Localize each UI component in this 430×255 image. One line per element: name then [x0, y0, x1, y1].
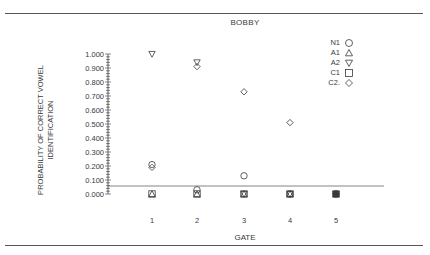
- circle-icon: [344, 38, 354, 48]
- triangle-up-marker-icon: [149, 191, 155, 197]
- diamond-marker-icon: [287, 119, 293, 125]
- y-tick-label: 0.400: [85, 134, 104, 143]
- scatter-plot: 1.0000.9000.8000.7000.6000.5000.4000.300…: [0, 0, 430, 255]
- diamond-icon: [344, 78, 354, 88]
- y-tick-label: 1.000: [85, 50, 104, 59]
- legend-item: N1: [318, 38, 354, 48]
- triangle-down-icon: [344, 58, 354, 68]
- overlapping-markers: [333, 191, 339, 197]
- x-tick-label: 1: [150, 216, 154, 225]
- y-tick-label: 0.500: [85, 120, 104, 129]
- y-tick-label: 0.100: [85, 176, 104, 185]
- legend-label: N1: [318, 38, 340, 48]
- x-tick-label: 4: [288, 216, 292, 225]
- y-tick-label: 0.300: [85, 148, 104, 157]
- square-icon: [344, 68, 354, 78]
- y-axis: 1.0000.9000.8000.7000.6000.5000.4000.300…: [85, 50, 111, 199]
- legend-label: A1: [318, 48, 340, 58]
- legend-item: C1: [318, 68, 354, 78]
- square-marker-icon: [346, 70, 353, 77]
- triangle-down-marker-icon: [149, 51, 155, 57]
- triangle-up-marker-icon: [346, 50, 353, 56]
- triangle-up-icon: [344, 48, 354, 58]
- legend-item: A1: [318, 48, 354, 58]
- triangle-down-marker-icon: [346, 60, 353, 66]
- x-tick-label: 5: [334, 216, 338, 225]
- x-tick-label: 3: [242, 216, 246, 225]
- legend-item: C2.: [318, 78, 354, 88]
- triangle-down-marker-icon: [194, 60, 200, 66]
- y-tick-label: 0.000: [85, 190, 104, 199]
- y-tick-label: 0.200: [85, 162, 104, 171]
- y-tick-label: 0.700: [85, 92, 104, 101]
- legend: N1A1A2C1C2.: [318, 38, 354, 88]
- legend-label: C1: [318, 68, 340, 78]
- diamond-marker-icon: [194, 63, 200, 69]
- diamond-marker-icon: [241, 89, 247, 95]
- circle-marker-icon: [194, 187, 200, 193]
- legend-item: A2: [318, 58, 354, 68]
- y-tick-label: 0.600: [85, 106, 104, 115]
- y-tick-label: 0.800: [85, 78, 104, 87]
- data-points: [149, 51, 339, 197]
- x-tick-label: 2: [195, 216, 199, 225]
- circle-marker-icon: [346, 40, 353, 47]
- circle-marker-icon: [241, 173, 247, 179]
- legend-label: A2: [318, 58, 340, 68]
- y-tick-label: 0.900: [85, 64, 104, 73]
- diamond-marker-icon: [346, 80, 353, 87]
- x-axis-ticks: 12345: [150, 216, 338, 225]
- legend-label: C2.: [318, 78, 340, 88]
